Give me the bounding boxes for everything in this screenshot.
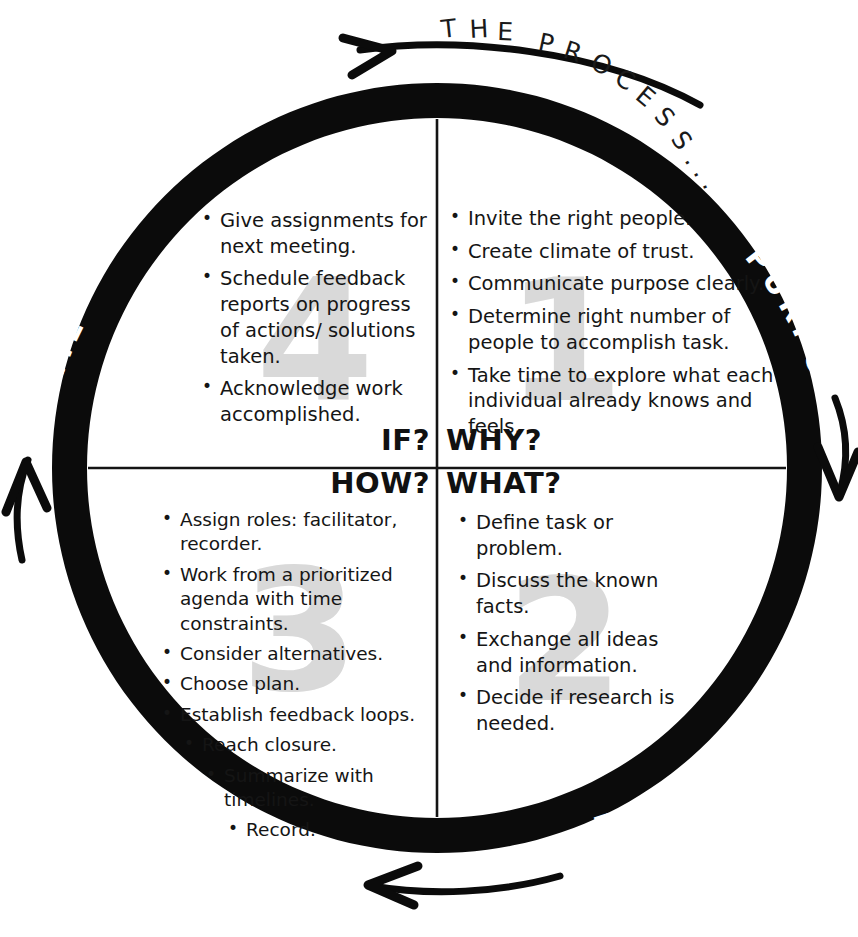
center-question-if: IF? xyxy=(262,423,430,457)
top-arrow-head xyxy=(343,38,392,75)
list-item: Assign roles: facilitator, recorder. xyxy=(160,508,442,557)
list-item: Work from a prioritized agenda with time… xyxy=(160,563,442,636)
list-item: Record. xyxy=(226,818,442,842)
title-char: T xyxy=(439,13,459,44)
title-char: E xyxy=(497,17,514,47)
list-item: Acknowledge work accomplished. xyxy=(200,376,435,427)
list-item: Invite the right people. xyxy=(448,206,800,232)
title-char: S xyxy=(665,125,698,155)
list-item: Communicate purpose clearly. xyxy=(448,271,800,297)
list-item: Establish feedback loops. xyxy=(160,703,442,727)
list-item: Decide if research is needed. xyxy=(456,685,696,736)
bottom-arrow xyxy=(372,876,560,892)
list-item: Exchange all ideas and information. xyxy=(456,627,696,678)
list-item: Reach closure. xyxy=(182,733,442,757)
outcome-item-list: Give assignments for next meeting. Sched… xyxy=(200,208,435,435)
process-item-list: Assign roles: facilitator, recorder. Wor… xyxy=(160,508,442,849)
list-item: Give assignments for next meeting. xyxy=(200,208,435,259)
list-item: Consider alternatives. xyxy=(160,642,442,666)
center-question-what: WHAT? xyxy=(446,466,636,500)
list-item: Define task or problem. xyxy=(456,510,696,561)
purpose-item-list: Invite the right people. Create climate … xyxy=(448,206,800,447)
title-char: H xyxy=(469,14,489,44)
list-item: Schedule feedback reports on progress of… xyxy=(200,266,435,369)
title-char: O xyxy=(586,47,616,82)
list-item: Summarize with timelines. xyxy=(204,764,442,813)
title-char: S xyxy=(649,101,681,132)
list-item: Discuss the known facts. xyxy=(456,568,696,619)
problem-item-list: Define task or problem. Discuss the know… xyxy=(456,510,696,744)
right-arrow-head xyxy=(818,447,858,497)
list-item: Create climate of trust. xyxy=(448,239,800,265)
process-diagram: 4 1 3 2 OUTCOME PURPOSE PROBLEM PROCESS xyxy=(0,0,858,937)
list-item: Determine right number of people to acco… xyxy=(448,304,800,355)
center-question-how: HOW? xyxy=(252,466,430,500)
list-item: Choose plan. xyxy=(160,672,442,696)
center-question-why: WHY? xyxy=(446,423,626,457)
title-char: . xyxy=(697,175,727,194)
